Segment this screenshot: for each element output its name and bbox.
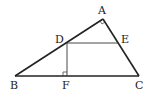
label-B: B [10, 79, 18, 92]
segment-AB [15, 19, 103, 76]
label-D: D [55, 33, 64, 46]
geometry-diagram: A B C D E F [0, 0, 147, 95]
segment-AC [103, 19, 139, 76]
label-A: A [97, 4, 107, 17]
label-C: C [135, 79, 143, 92]
label-E: E [121, 33, 129, 46]
label-F: F [62, 79, 70, 92]
